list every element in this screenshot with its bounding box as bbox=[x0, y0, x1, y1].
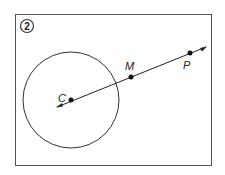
label-m: M bbox=[125, 60, 135, 72]
label-p: P bbox=[183, 59, 191, 71]
point-p bbox=[188, 51, 193, 56]
figure-number-badge: 2 bbox=[21, 20, 34, 33]
point-m bbox=[129, 75, 134, 80]
frame bbox=[16, 15, 212, 166]
label-c: C bbox=[58, 92, 66, 104]
diagram: 2 C M P bbox=[0, 0, 225, 175]
point-c bbox=[69, 98, 74, 103]
figure-number: 2 bbox=[24, 21, 30, 32]
